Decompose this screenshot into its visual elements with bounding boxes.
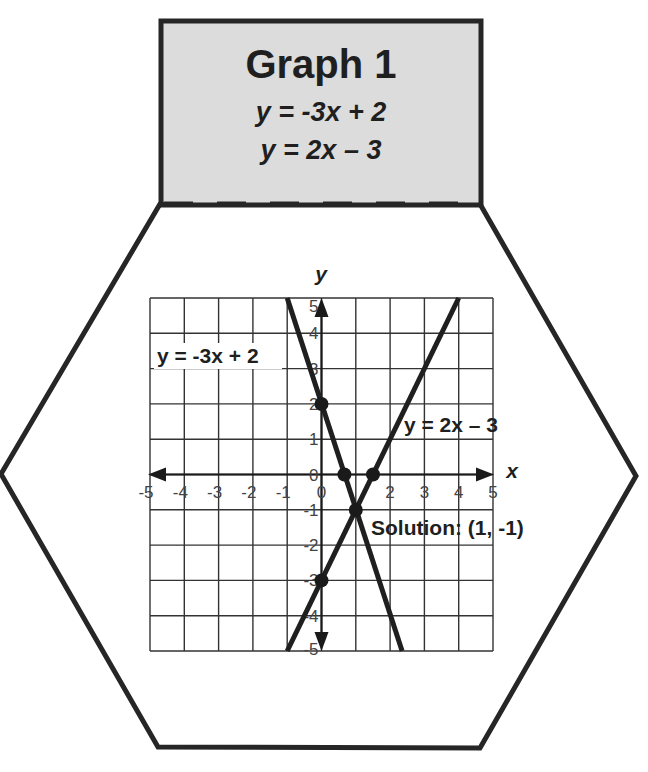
x-tick-label: 3 [420, 483, 429, 502]
graph-card: Graph 1 y = -3x + 2 y = 2x – 3 x y -5-4-… [0, 0, 648, 772]
solution-point [349, 503, 363, 517]
y-tick-label: 0 [309, 466, 318, 485]
y-tick-label: -5 [303, 640, 318, 659]
x-tick-label: -1 [276, 483, 291, 502]
y-tick-label: 4 [309, 324, 318, 343]
x-tick-label: 2 [385, 483, 394, 502]
line-2-label: y = 2x – 3 [404, 413, 498, 436]
x-tick-label: -3 [207, 483, 222, 502]
x-tick-label: -5 [138, 483, 153, 502]
axes: x y [148, 262, 519, 651]
y-tick-label: 1 [309, 430, 318, 449]
x-axis-right-arrow-icon [476, 468, 494, 482]
x-tick-label: 4 [454, 483, 463, 502]
x-axis-label: x [505, 459, 519, 482]
line-1-label: y = -3x + 2 [157, 344, 259, 367]
solution-label: Solution: (1, -1) [371, 516, 524, 539]
equation-2: y = 2x – 3 [259, 135, 382, 165]
x-tick-label: 5 [488, 483, 497, 502]
x-tick-label: -2 [241, 483, 256, 502]
equation-1: y = -3x + 2 [254, 97, 387, 127]
x-tick-label: -4 [173, 483, 188, 502]
y-tick-label: -2 [303, 536, 318, 555]
x-tick-label: 0 [317, 483, 326, 502]
point-x-intercept-line2 [366, 468, 380, 482]
hexagon-border [1, 204, 636, 748]
y-tick-label: 5 [309, 297, 318, 316]
y-axis-label: y [314, 262, 328, 285]
graph-title: Graph 1 [245, 42, 396, 86]
y-tick-label: -1 [303, 501, 318, 520]
point-x-intercept-line1 [337, 468, 351, 482]
point-0-neg3 [315, 573, 329, 587]
point-0-2 [315, 397, 329, 411]
